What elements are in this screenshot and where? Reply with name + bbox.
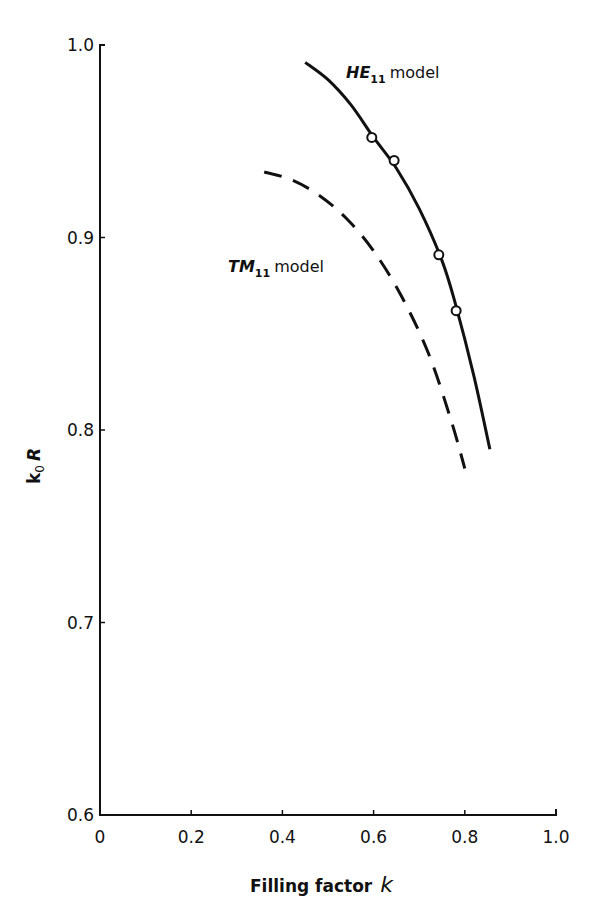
x-tick-label: 0.2 [178, 827, 205, 847]
he11-curve [305, 62, 490, 449]
data-point-marker [434, 250, 443, 259]
x-tick-label: 0.8 [451, 827, 478, 847]
data-point-marker [390, 156, 399, 165]
y-axis-title: k0R [24, 448, 47, 484]
y-tick-label: 0.9 [67, 228, 94, 248]
y-tick-label: 0.6 [67, 805, 94, 825]
tm11-curve [264, 172, 465, 468]
x-tick-label: 0 [95, 827, 106, 847]
chart: 00.20.40.60.81.0 0.60.70.80.91.0 HE11mod… [0, 0, 589, 917]
labels: HE11model TM11model Filling factork k0R [24, 63, 439, 897]
series-label-he11: HE11model [346, 63, 439, 86]
x-axis-title: Filling factork [250, 872, 394, 897]
data-point-marker [452, 306, 461, 315]
y-tick-label: 1.0 [67, 35, 94, 55]
x-tick-label: 1.0 [542, 827, 569, 847]
y-tick-label: 0.8 [67, 420, 94, 440]
series-label-tm11: TM11model [228, 257, 324, 280]
data-point-marker [367, 133, 376, 142]
x-tick-label: 0.4 [269, 827, 296, 847]
x-tick-label: 0.6 [360, 827, 387, 847]
axes [99, 44, 557, 815]
y-tick-label: 0.7 [67, 613, 94, 633]
